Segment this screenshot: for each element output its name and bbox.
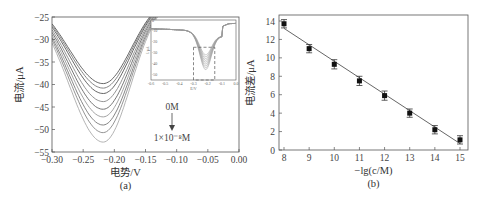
x-tick-label: 13 [405,153,415,163]
x-tick-label: 10 [330,153,340,163]
x-axis-label: 电势/V [110,166,141,178]
y-tick-label: −35 [34,58,49,68]
x-axis-label: −lg(c/M) [355,165,393,177]
square-marker-icon [307,46,312,51]
x-tick-label: −0.25 [72,155,94,165]
square-marker-icon [407,111,412,116]
y-tick-label: 6 [270,90,275,100]
inset-y-label: I/μA [145,46,150,54]
annotation-start: 0M [165,102,179,112]
y-tick-label: 2 [270,127,275,137]
square-marker-icon [282,21,287,26]
y-tick-label: −45 [34,103,49,113]
y-tick-label: 14 [266,17,276,27]
y-tick-label: 4 [270,109,275,119]
x-tick-label: 15 [455,153,465,163]
x-tick-label: 9 [307,153,312,163]
data-point [331,60,337,69]
panel-b-calibration: 8910111213141502468101214−lg(c/M)(b)电流差/… [244,15,468,190]
data-point [432,126,438,134]
square-marker-icon [458,137,463,142]
x-tick-label: −0.15 [135,155,157,165]
x-tick-label: −0.05 [197,155,219,165]
square-marker-icon [357,78,362,83]
y-tick-label: 8 [270,72,275,82]
panel-label: (b) [367,178,380,190]
inset-x-tick-label: -0.6 [148,81,154,86]
data-point [356,76,362,85]
y-tick-label: −55 [34,148,49,158]
inset-x-tick-label: 0.0 [234,81,239,86]
panel-a-voltammogram: −0.30−0.25−0.20−0.15−0.10−0.050.00−25−30… [13,0,248,192]
y-tick-label: 0 [270,146,275,156]
inset-y-tick-label: -40 [152,61,157,66]
y-axis-label: 电流/μA [13,66,25,103]
x-tick-label: 8 [282,153,287,163]
inset-y-tick-label: -10 [152,28,157,33]
inset-y-tick-label: -30 [152,50,157,55]
y-tick-label: 12 [266,35,276,45]
y-tick-label: −40 [34,80,49,90]
inset-y-tick-label: -50 [152,72,157,77]
inset-x-tick-label: -0.5 [162,81,168,86]
inset: -0.6-0.5-0.4-0.3-0.2-0.10.00-10-20-30-40… [145,18,239,92]
data-point [407,109,413,117]
y-tick-label: 10 [266,53,276,63]
square-marker-icon [382,93,387,98]
figure: −0.30−0.25−0.20−0.15−0.10−0.050.00−25−30… [0,0,488,198]
x-tick-label: 11 [355,153,364,163]
y-tick-label: −25 [34,13,49,23]
y-tick-label: −30 [34,35,49,45]
inset-y-tick-label: 0 [152,18,154,23]
inset-x-tick-label: -0.1 [219,81,225,86]
x-tick-label: 0.00 [231,155,248,165]
fit-line [284,28,460,143]
inset-x-tick-label: -0.2 [204,81,210,86]
x-tick-label: −0.20 [103,155,125,165]
inset-y-tick-label: -20 [152,39,157,44]
inset-x-label: E/V [190,86,197,91]
x-tick-label: 12 [380,153,390,163]
panel-label: (a) [120,180,132,192]
annotation-end: 1×10⁻⁸M [154,133,191,143]
y-tick-label: −50 [34,125,49,135]
y-axis-label: 电流差/μA [244,59,256,106]
square-marker-icon [332,62,337,67]
inset-x-tick-label: -0.4 [176,81,182,86]
x-tick-label: −0.10 [166,155,188,165]
arrow-head-icon [169,125,175,131]
square-marker-icon [432,127,437,132]
x-tick-label: 14 [430,153,440,163]
